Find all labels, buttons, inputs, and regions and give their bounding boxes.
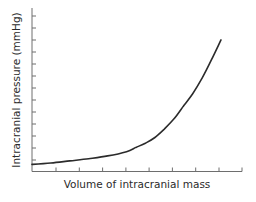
x-axis-label: Volume of intracranial mass — [64, 178, 211, 190]
x-axis — [32, 168, 242, 172]
y-axis — [32, 8, 36, 172]
x-axis-ticks — [56, 168, 242, 172]
y-axis-label: Intracranial pressure (mmHg) — [10, 12, 22, 167]
pressure-volume-curve — [32, 40, 221, 164]
pressure-volume-chart: Volume of intracranial mass Intracranial… — [0, 0, 256, 202]
y-axis-ticks — [32, 16, 36, 160]
